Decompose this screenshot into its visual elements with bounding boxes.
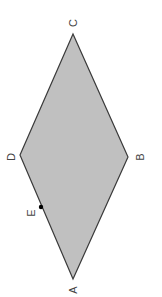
vertex-label-a: A: [67, 286, 79, 294]
vertex-label-d: D: [5, 153, 17, 161]
rhombus-diagram: A B C D E: [0, 0, 162, 297]
point-label-e: E: [25, 209, 37, 216]
vertex-label-c: C: [67, 19, 79, 27]
vertex-label-b: B: [134, 153, 146, 160]
rhombus-abcd: [20, 34, 128, 279]
point-e-dot: [39, 205, 43, 209]
